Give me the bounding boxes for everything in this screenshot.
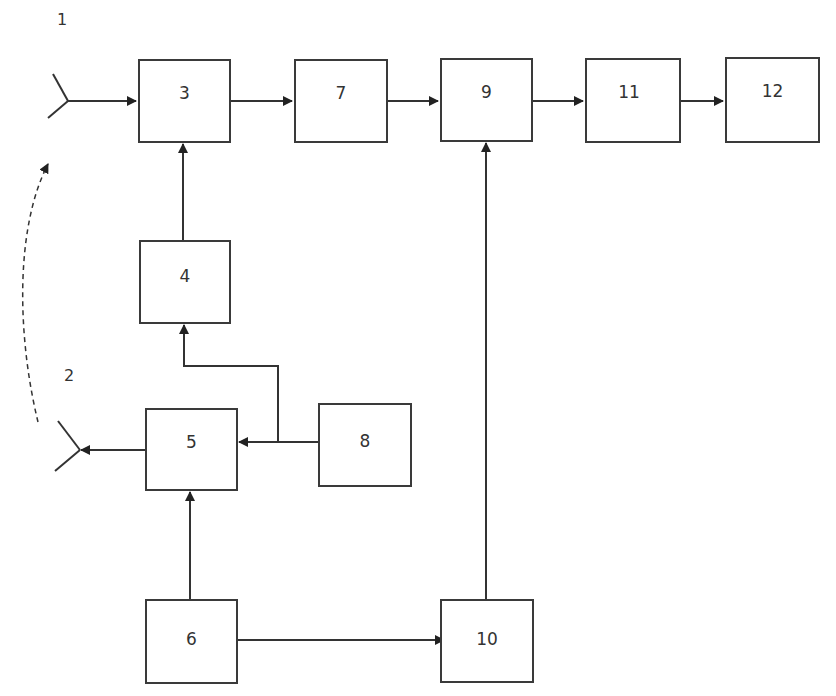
block-3: 3 xyxy=(138,59,231,143)
block-12: 12 xyxy=(725,57,820,143)
block-5: 5 xyxy=(145,408,238,491)
antenna-1-icon xyxy=(48,74,68,118)
block-4: 4 xyxy=(139,240,231,324)
block-10-label: 10 xyxy=(442,629,532,649)
arrow-dashed-antenna2-to-antenna1 xyxy=(23,164,48,422)
block-5-label: 5 xyxy=(147,432,236,452)
block-6: 6 xyxy=(145,599,238,684)
block-diagram: 1 2 3 4 5 6 7 8 9 10 11 12 xyxy=(0,0,836,696)
antenna-2-label: 2 xyxy=(64,366,74,385)
block-11: 11 xyxy=(585,58,681,143)
block-9: 9 xyxy=(440,58,533,142)
connector-lines xyxy=(0,0,836,696)
block-10: 10 xyxy=(440,599,534,683)
antenna-1-label: 1 xyxy=(57,10,67,29)
block-9-label: 9 xyxy=(442,82,531,102)
antenna-2-icon xyxy=(55,421,80,471)
block-3-label: 3 xyxy=(140,83,229,103)
block-7-label: 7 xyxy=(296,83,386,103)
block-8-label: 8 xyxy=(320,431,410,451)
block-12-label: 12 xyxy=(727,81,818,101)
block-4-label: 4 xyxy=(141,266,229,286)
block-8: 8 xyxy=(318,403,412,487)
block-6-label: 6 xyxy=(147,629,236,649)
block-7: 7 xyxy=(294,59,388,143)
block-11-label: 11 xyxy=(579,82,679,102)
